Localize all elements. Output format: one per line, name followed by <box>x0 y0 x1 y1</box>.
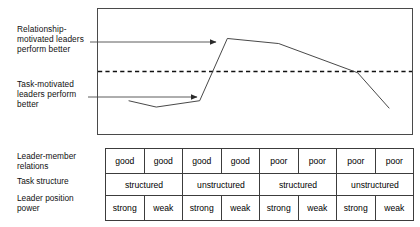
table-cell: good <box>144 149 183 174</box>
table-cell: poor <box>337 149 376 174</box>
table-row: structuredunstructuredstructuredunstruct… <box>106 174 414 196</box>
table-cell: weak <box>298 196 337 221</box>
annotation-relationship-motivated: Relationship- motivated leaders perform … <box>17 24 95 55</box>
table-cell: unstructured <box>337 174 414 196</box>
fiedler-contingency-figure: Relationship- motivated leaders perform … <box>0 0 420 227</box>
table-cell: strong <box>260 196 299 221</box>
table-cell: good <box>106 149 145 174</box>
row-label-leader-position-power: Leader position power <box>17 193 103 213</box>
table-cell: poor <box>260 149 299 174</box>
table-cell: weak <box>144 196 183 221</box>
table-cell: poor <box>298 149 337 174</box>
table-cell: poor <box>375 149 414 174</box>
table-row: strongweakstrongweakstrongweakstrongweak <box>106 196 414 221</box>
table-cell: structured <box>260 174 337 196</box>
table-cell: weak <box>375 196 414 221</box>
table-cell: strong <box>337 196 376 221</box>
annotation-task-motivated: Task-motivated leaders perform better <box>17 79 95 110</box>
table-cell: good <box>221 149 260 174</box>
row-label-task-structure: Task structure <box>17 176 103 186</box>
table-cell: unstructured <box>183 174 260 196</box>
table-cell: strong <box>183 196 222 221</box>
situational-variables-table: goodgoodgoodgoodpoorpoorpoorpoorstructur… <box>105 148 414 221</box>
table-cell: good <box>183 149 222 174</box>
table-body: goodgoodgoodgoodpoorpoorpoorpoorstructur… <box>106 149 414 221</box>
table-cell: weak <box>221 196 260 221</box>
table-cell: strong <box>106 196 145 221</box>
chart-plot-area <box>97 8 413 135</box>
table-row: goodgoodgoodgoodpoorpoorpoorpoor <box>106 149 414 174</box>
table-cell: structured <box>106 174 183 196</box>
row-label-leader-member-relations: Leader-member relations <box>17 151 103 171</box>
